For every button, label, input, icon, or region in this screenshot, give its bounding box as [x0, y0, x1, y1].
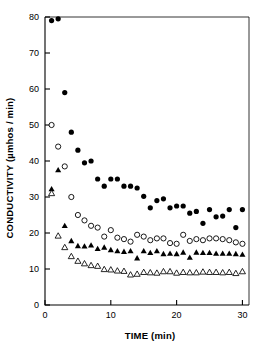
- data-point: [207, 207, 212, 212]
- y-tick-label: 10: [29, 264, 39, 274]
- data-point: [56, 144, 61, 149]
- data-point: [174, 241, 179, 246]
- data-point: [121, 237, 126, 242]
- y-tick-label: 30: [29, 192, 39, 202]
- data-point: [167, 240, 172, 245]
- data-point: [62, 164, 67, 169]
- data-point: [141, 194, 146, 199]
- y-tick-label: 50: [29, 120, 39, 130]
- x-tick-label: 20: [172, 310, 182, 320]
- data-point: [102, 184, 107, 189]
- y-tick-label: 40: [29, 156, 39, 166]
- data-point: [233, 225, 238, 230]
- data-point: [141, 234, 146, 239]
- data-point: [200, 221, 205, 226]
- data-point: [95, 176, 100, 181]
- data-point: [161, 196, 166, 201]
- y-tick-label: 70: [29, 48, 39, 58]
- y-tick-label: 80: [29, 12, 39, 22]
- data-point: [62, 90, 67, 95]
- data-point: [115, 176, 120, 181]
- data-point: [49, 18, 54, 23]
- data-point: [121, 184, 126, 189]
- data-point: [200, 238, 205, 243]
- data-point: [174, 203, 179, 208]
- y-tick-label: 0: [34, 300, 39, 310]
- data-point: [154, 236, 159, 241]
- data-point: [82, 218, 87, 223]
- data-point: [187, 238, 192, 243]
- data-point: [220, 237, 225, 242]
- data-point: [194, 237, 199, 242]
- data-point: [227, 207, 232, 212]
- x-tick-label: 30: [237, 310, 247, 320]
- data-point: [75, 148, 80, 153]
- data-point: [194, 209, 199, 214]
- scatter-plot: 01020304050607080 0102030 TIME (min) CON…: [0, 0, 276, 349]
- data-point: [167, 205, 172, 210]
- data-point: [154, 198, 159, 203]
- y-tick-label: 60: [29, 84, 39, 94]
- x-tick-label: 0: [42, 310, 47, 320]
- chart-background: [0, 0, 276, 349]
- data-point: [95, 225, 100, 230]
- x-tick-label: 10: [106, 310, 116, 320]
- data-point: [181, 203, 186, 208]
- data-point: [82, 160, 87, 165]
- data-point: [187, 211, 192, 216]
- data-point: [148, 205, 153, 210]
- data-point: [128, 184, 133, 189]
- y-tick-label: 20: [29, 228, 39, 238]
- data-point: [181, 232, 186, 237]
- data-point: [220, 213, 225, 218]
- data-point: [135, 185, 140, 190]
- data-point: [213, 214, 218, 219]
- data-point: [135, 232, 140, 237]
- data-point: [207, 236, 212, 241]
- x-axis-title: TIME (min): [125, 330, 176, 341]
- data-point: [69, 194, 74, 199]
- data-point: [56, 16, 61, 21]
- data-point: [88, 158, 93, 163]
- data-point: [108, 228, 113, 233]
- data-point: [128, 239, 133, 244]
- data-point: [88, 223, 93, 228]
- data-point: [161, 236, 166, 241]
- data-point: [115, 235, 120, 240]
- data-point: [49, 122, 54, 127]
- y-axis-tick-labels: 01020304050607080: [29, 12, 39, 310]
- data-point: [75, 212, 80, 217]
- data-point: [240, 207, 245, 212]
- data-point: [240, 241, 245, 246]
- data-point: [213, 236, 218, 241]
- data-point: [69, 130, 74, 135]
- data-point: [102, 234, 107, 239]
- data-point: [108, 176, 113, 181]
- data-point: [227, 238, 232, 243]
- data-point: [233, 240, 238, 245]
- y-axis-title: CONDUCTIVITY (µmhos / min): [4, 98, 15, 239]
- chart-figure: 01020304050607080 0102030 TIME (min) CON…: [0, 0, 276, 349]
- data-point: [148, 238, 153, 243]
